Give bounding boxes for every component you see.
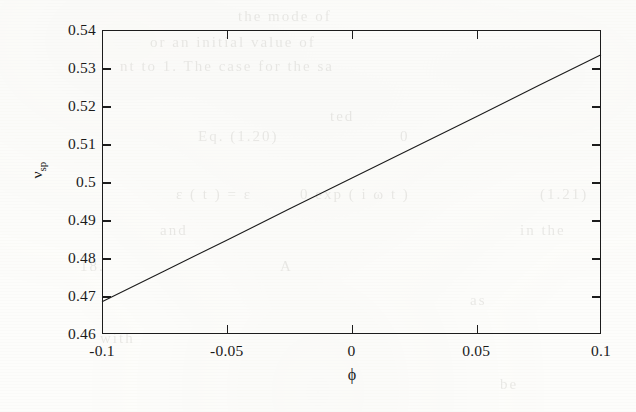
x-tick-label: 0.1 — [561, 342, 636, 360]
x-axis-label: ϕ — [348, 366, 356, 384]
y-tick-label: 0.5 — [26, 173, 96, 191]
x-tick-label: -0.1 — [62, 342, 142, 360]
y-tick-label: 0.47 — [26, 287, 96, 305]
y-tick-label: 0.52 — [26, 97, 96, 115]
x-tick-label: 0.05 — [436, 342, 516, 360]
y-tick-label: 0.49 — [26, 211, 96, 229]
y-tick-label: 0.51 — [26, 135, 96, 153]
y-tick-label: 0.46 — [26, 325, 96, 343]
y-tick-label: 0.53 — [26, 59, 96, 77]
data-plot-area — [102, 30, 601, 334]
y-tick-label: 0.54 — [26, 21, 96, 39]
x-tick-label: 0 — [312, 342, 392, 360]
series-line-nu-sp — [102, 55, 601, 302]
x-tick-label: -0.05 — [187, 342, 267, 360]
y-axis-label-subscript: sp — [36, 162, 48, 172]
y-tick-label: 0.48 — [26, 249, 96, 267]
figure-nu-sp-vs-phi: νsp ϕ 0.460.470.480.490.50.510.520.530.5… — [0, 0, 636, 412]
